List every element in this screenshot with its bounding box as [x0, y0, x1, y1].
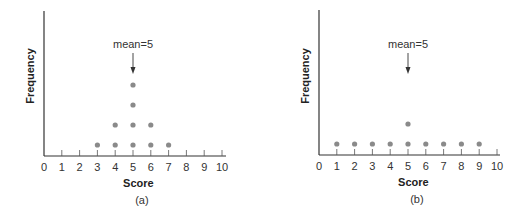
- dot-plot-panel-b: 012345678910Score(b)Frequencymean=5: [299, 10, 503, 205]
- data-dot: [148, 142, 153, 147]
- x-tick-label: 0: [316, 160, 322, 172]
- data-dot: [113, 142, 118, 147]
- dot-plot-panel-a: 012345678910Score(a)Frequencymean=5: [24, 11, 228, 206]
- x-tick-label: 8: [183, 161, 189, 173]
- data-dot: [423, 141, 428, 146]
- arrow-down-icon: [131, 67, 136, 74]
- data-dot: [370, 141, 375, 146]
- data-dot: [130, 122, 135, 127]
- x-tick-label: 7: [441, 160, 447, 172]
- mean-annotation: mean=5: [113, 38, 153, 50]
- data-dot: [95, 142, 100, 147]
- mean-annotation: mean=5: [388, 38, 428, 50]
- data-dot: [405, 121, 410, 126]
- x-tick-label: 5: [405, 160, 411, 172]
- x-tick-label: 5: [130, 161, 136, 173]
- panel-caption: (b): [410, 193, 423, 205]
- data-dot: [130, 102, 135, 107]
- data-dot: [166, 142, 171, 147]
- data-dot: [405, 141, 410, 146]
- x-tick-label: 0: [41, 161, 47, 173]
- x-tick-label: 9: [476, 160, 482, 172]
- y-axis-title: Frequency: [299, 47, 311, 104]
- x-tick-label: 3: [94, 161, 100, 173]
- x-tick-label: 6: [423, 160, 429, 172]
- data-dot: [334, 141, 339, 146]
- x-tick-label: 10: [216, 161, 228, 173]
- y-axis-title: Frequency: [24, 47, 36, 104]
- x-tick-label: 2: [77, 161, 83, 173]
- x-tick-label: 9: [201, 161, 207, 173]
- x-tick-label: 4: [112, 161, 118, 173]
- x-tick-label: 10: [491, 160, 503, 172]
- data-dot: [352, 141, 357, 146]
- x-tick-label: 2: [352, 160, 358, 172]
- data-dot: [459, 141, 464, 146]
- data-dot: [130, 82, 135, 87]
- x-tick-label: 8: [458, 160, 464, 172]
- x-tick-label: 6: [148, 161, 154, 173]
- panel-caption: (a): [135, 194, 148, 206]
- x-tick-label: 7: [166, 161, 172, 173]
- x-tick-label: 3: [369, 160, 375, 172]
- x-tick-label: 1: [59, 161, 65, 173]
- arrow-down-icon: [406, 67, 411, 74]
- data-dot: [477, 141, 482, 146]
- x-axis-title: Score: [398, 176, 429, 188]
- data-dot: [130, 142, 135, 147]
- data-dot: [388, 141, 393, 146]
- dot-plot-figure: 012345678910Score(a)Frequencymean=5 0123…: [0, 0, 520, 220]
- data-dot: [113, 122, 118, 127]
- data-dot: [148, 122, 153, 127]
- x-tick-label: 4: [387, 160, 393, 172]
- x-axis-title: Score: [123, 177, 154, 189]
- data-dot: [441, 141, 446, 146]
- x-tick-label: 1: [334, 160, 340, 172]
